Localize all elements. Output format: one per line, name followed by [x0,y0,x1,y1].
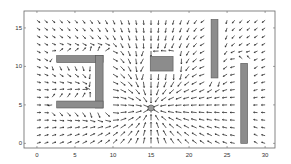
field-arrow [193,66,197,69]
field-arrow [128,131,132,135]
field-arrow [186,66,189,70]
y-axis: 051015 [15,25,275,146]
field-arrow [83,113,86,117]
field-arrow [75,48,78,51]
field-arrow [75,93,78,97]
field-arrow [121,59,124,63]
field-arrow [98,141,102,144]
field-arrow [194,36,197,39]
field-arrow [113,59,117,62]
vector-field [37,20,265,143]
y-tick-label: 0 [19,140,23,146]
field-arrow [121,51,124,55]
y-tick-label: 15 [15,25,22,31]
field-arrow [121,74,125,78]
obstacle-lower-right-pillar [241,63,248,143]
field-arrow [185,74,189,78]
field-arrow [171,139,174,144]
field-arrow [83,48,86,51]
field-arrow [128,97,133,99]
field-arrow [178,139,182,143]
field-arrow [177,132,181,136]
field-arrow [163,131,166,136]
field-arrow [128,66,131,71]
field-arrow [194,28,197,31]
x-tick-label: 20 [186,152,193,158]
field-arrow [177,125,182,128]
field-arrow [113,140,117,144]
field-arrow [224,59,227,62]
field-arrow [136,82,139,87]
x-tick-label: 5 [73,152,77,158]
field-arrow [75,74,79,77]
x-axis: 051015202530 [35,11,269,158]
field-arrow [90,36,93,39]
field-arrow [169,124,173,128]
field-arrow [136,117,141,121]
field-arrow [192,133,197,136]
field-arrow [136,90,140,94]
field-arrow [60,113,63,116]
field-arrow [121,66,125,70]
field-arrow [121,132,125,136]
field-arrow [192,140,196,143]
field-arrow [162,117,167,121]
field-arrow [223,66,227,69]
x-tick-label: 15 [148,152,155,158]
field-arrow [185,132,189,135]
y-tick-label: 5 [19,102,23,108]
goal-marker [148,105,154,111]
quiver-plot: 051015202530 051015 [0,0,291,164]
goal-circle [148,105,154,111]
field-arrow [193,51,196,54]
field-arrow [184,90,189,92]
obstacle-u-right-bar [95,56,103,108]
obstacle-u-bottom-bar [57,101,103,108]
field-arrow [143,110,148,113]
field-arrow [105,113,109,117]
field-arrow [75,113,78,117]
field-arrow [105,140,109,143]
field-arrow [156,115,159,120]
field-arrow [178,82,182,86]
field-arrow [83,74,86,78]
field-arrow [113,74,118,77]
x-tick-label: 10 [110,152,117,158]
field-arrow [161,97,166,100]
y-tick-label: 10 [15,63,22,69]
field-arrow [141,59,144,64]
field-arrow [121,139,125,143]
field-arrow [141,66,144,71]
field-arrow [184,125,189,128]
field-arrow [121,90,126,93]
field-arrow [136,131,139,136]
field-arrow [105,36,108,40]
field-arrow [67,113,70,116]
field-arrow [105,48,109,51]
obstacle-center-block [150,56,173,71]
field-arrow [143,115,146,120]
field-arrow [121,82,126,85]
field-arrow [192,74,197,77]
field-arrow [163,123,167,128]
field-arrow [169,97,174,99]
field-arrow [155,97,158,102]
field-arrow [177,90,182,93]
field-arrow [136,123,140,128]
field-arrow [185,82,189,85]
field-arrow [171,82,174,87]
field-arrow [185,140,189,144]
field-arrow [113,43,116,46]
x-tick-label: 0 [35,152,39,158]
field-arrow [193,43,196,46]
field-arrow [128,82,132,86]
x-tick-label: 30 [262,152,269,158]
field-arrow [186,59,189,63]
field-arrow [136,97,141,100]
field-arrow [169,118,174,121]
field-arrow [128,124,132,128]
field-arrow [121,125,126,128]
field-arrow [170,90,174,94]
field-arrow [113,66,118,69]
field-arrow [67,94,70,98]
